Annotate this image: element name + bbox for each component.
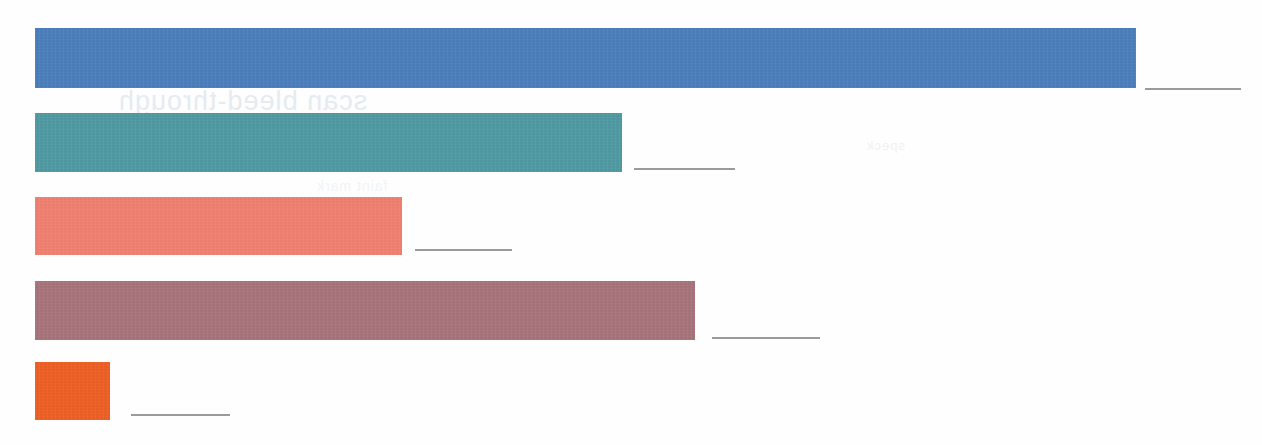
- value-label-rule: [634, 168, 735, 170]
- bars-layer: [0, 0, 1262, 445]
- bar-row: [0, 197, 1262, 255]
- bar-2[interactable]: [35, 113, 622, 172]
- bar-3[interactable]: [35, 197, 402, 255]
- bar-1[interactable]: [35, 28, 1136, 88]
- bar-5[interactable]: [35, 362, 110, 420]
- bar-row: [0, 28, 1262, 88]
- value-label-rule: [131, 414, 230, 416]
- bar-row: [0, 113, 1262, 172]
- horizontal-bar-chart: scan bleed-through reverse page text fai…: [0, 0, 1262, 445]
- bar-row: [0, 362, 1262, 420]
- bar-4[interactable]: [35, 281, 695, 340]
- value-label-rule: [712, 337, 820, 339]
- value-label-rule: [415, 249, 512, 251]
- bar-row: [0, 281, 1262, 340]
- value-label-rule: [1145, 88, 1241, 90]
